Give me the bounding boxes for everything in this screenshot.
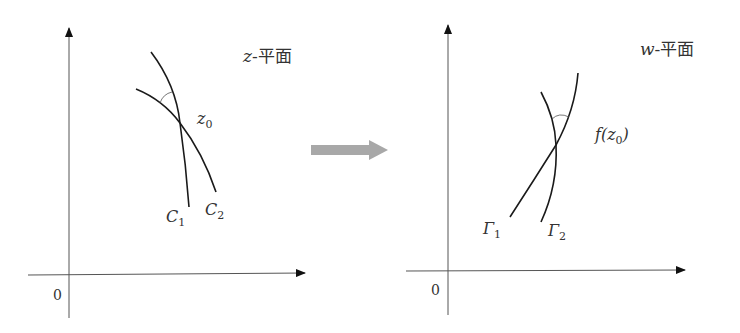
c1-label: C1	[166, 207, 185, 229]
f-z0-label: f(z0)	[594, 125, 629, 147]
z-plane-origin-label: 0	[53, 287, 62, 303]
conformal-mapping-diagram: 0 z0 C1 C2 z-平面 0 f(z0) Γ1	[0, 0, 740, 333]
w-plane-origin-label: 0	[431, 282, 440, 298]
curve-gamma1	[510, 73, 578, 217]
w-plane-panel: 0 f(z0) Γ1 Γ2 w-平面	[406, 25, 694, 315]
w-plane-label: w-平面	[640, 39, 694, 59]
angle-arc-w	[552, 115, 569, 119]
mapping-arrow-icon	[311, 140, 388, 160]
gamma1-label: Γ1	[482, 219, 501, 241]
gamma2-label: Γ2	[547, 221, 566, 243]
z0-label: z0	[196, 109, 212, 131]
z-plane-panel: 0 z0 C1 C2 z-平面	[28, 28, 305, 318]
curve-c1	[151, 52, 189, 207]
z-plane-label: z-平面	[242, 46, 292, 66]
c2-label: C2	[205, 200, 224, 222]
angle-arc-z	[160, 92, 172, 103]
z-plane-x-axis	[28, 273, 305, 275]
